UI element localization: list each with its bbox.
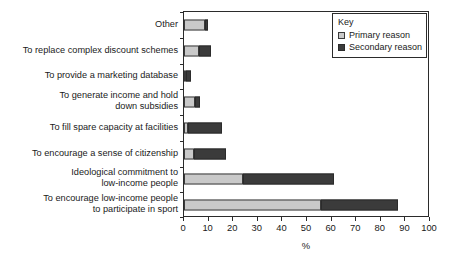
bar-segment-secondary — [199, 45, 211, 56]
bar-segment-secondary — [195, 97, 200, 108]
y-axis-label-marketing-database: To provide a marketing database — [0, 70, 178, 81]
bar-segment-primary — [184, 174, 243, 185]
legend-swatch-primary-icon — [338, 32, 345, 39]
y-axis-label-ideological: Ideological commitment to low-income peo… — [0, 168, 178, 189]
x-tick-label: 40 — [276, 222, 286, 233]
y-tick — [180, 141, 184, 142]
x-tick — [355, 217, 356, 221]
y-axis-label-generate-income: To generate income and hold down subsidi… — [0, 91, 178, 112]
y-tick — [180, 192, 184, 193]
legend-item-primary: Primary reason — [338, 29, 422, 41]
bar-segment-secondary — [243, 174, 334, 185]
x-tick-label: 50 — [301, 222, 311, 233]
y-axis-label-other: Other — [0, 19, 178, 30]
bar-segment-secondary — [321, 200, 398, 211]
y-axis-label-spare-capacity: To fill spare capacity at facilities — [0, 122, 178, 133]
x-tick — [257, 217, 258, 221]
x-tick-label: 70 — [350, 222, 360, 233]
x-tick-label: 100 — [421, 222, 437, 233]
x-tick — [208, 217, 209, 221]
x-tick — [404, 217, 405, 221]
x-tick — [429, 217, 430, 221]
y-tick — [180, 64, 184, 65]
legend-swatch-secondary-icon — [338, 44, 345, 51]
bar-segment-secondary — [188, 122, 222, 133]
y-tick — [180, 89, 184, 90]
bar-segment-primary — [184, 200, 321, 211]
x-tick-label: 30 — [252, 222, 262, 233]
legend-title: Key — [338, 17, 422, 28]
x-tick — [232, 217, 233, 221]
x-tick-label: 80 — [375, 222, 385, 233]
x-tick — [281, 217, 282, 221]
x-tick-label: 10 — [202, 222, 212, 233]
x-tick-label: 20 — [227, 222, 237, 233]
x-tick-label: 60 — [325, 222, 335, 233]
y-axis-label-participate-sport: To encourage low-income people to partic… — [0, 194, 178, 215]
x-tick — [380, 217, 381, 221]
x-tick — [331, 217, 332, 221]
legend-label-primary: Primary reason — [349, 29, 410, 41]
legend-label-secondary: Secondary reason — [349, 41, 422, 53]
y-tick — [180, 38, 184, 39]
x-tick-label: 0 — [180, 222, 185, 233]
legend-item-secondary: Secondary reason — [338, 41, 422, 53]
x-tick — [306, 217, 307, 221]
y-axis-label-citizenship: To encourage a sense of citizenship — [0, 147, 178, 158]
y-tick — [180, 167, 184, 168]
y-axis-label-discount-schemes: To replace complex discount schemes — [0, 44, 178, 55]
bar-segment-secondary — [205, 19, 208, 30]
bar-chart: Other To replace complex discount scheme… — [0, 0, 452, 264]
bar-segment-primary — [184, 19, 205, 30]
y-tick — [180, 12, 184, 13]
bar-segment-secondary — [186, 71, 192, 82]
bar-segment-primary — [184, 45, 199, 56]
y-axis-labels: Other To replace complex discount scheme… — [0, 11, 178, 217]
x-axis-title: % — [183, 240, 429, 251]
bar-segment-primary — [184, 97, 195, 108]
bar-segment-secondary — [194, 148, 226, 159]
y-tick — [180, 115, 184, 116]
bar-segment-primary — [184, 148, 194, 159]
x-tick-label: 90 — [399, 222, 409, 233]
x-tick — [183, 217, 184, 221]
legend: Key Primary reason Secondary reason — [332, 13, 427, 58]
